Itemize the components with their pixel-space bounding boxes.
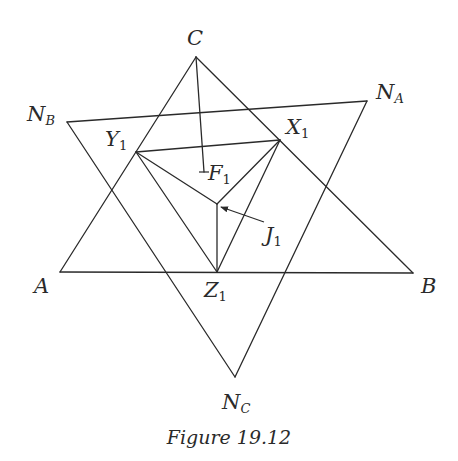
- label-X1-text: X: [286, 115, 301, 139]
- side-CA: [60, 57, 196, 272]
- label-NB: NB: [27, 104, 55, 127]
- pedal-X1Y1: [136, 140, 280, 152]
- label-Z1: Z1: [204, 280, 227, 303]
- label-NA-text: N: [376, 80, 394, 104]
- label-NC-sub: C: [240, 401, 250, 416]
- label-F1-text: F: [208, 161, 223, 185]
- side-NA-NB: [67, 101, 367, 122]
- pedal-Z1X1: [217, 140, 280, 272]
- label-Z1-sub: 1: [219, 289, 227, 304]
- label-NA-sub: A: [394, 91, 403, 106]
- geometry-figure: C A B NB NA NC Y1 X1 Z1 F1 J1 Figure 19.…: [0, 0, 458, 461]
- label-NB-sub: B: [45, 113, 55, 128]
- label-J1: J1: [265, 225, 282, 248]
- label-C-text: C: [187, 26, 203, 50]
- label-Y1-sub: 1: [119, 138, 127, 153]
- label-NA: NA: [376, 82, 404, 105]
- segments-group: [60, 57, 413, 377]
- label-F1: F1: [208, 163, 231, 186]
- label-C: C: [187, 28, 203, 49]
- label-A: A: [34, 276, 49, 297]
- pedal-Y1Z1: [136, 152, 217, 272]
- label-A-text: A: [34, 274, 49, 298]
- label-B: B: [421, 276, 436, 297]
- label-J1-sub: 1: [273, 234, 281, 249]
- label-X1: X1: [286, 117, 309, 140]
- label-NB-text: N: [27, 102, 45, 126]
- figure-caption: Figure 19.12: [0, 426, 458, 448]
- label-NC: NC: [222, 392, 250, 415]
- label-NC-text: N: [222, 390, 240, 414]
- label-Y1-text: Y: [105, 127, 119, 151]
- label-X1-sub: 1: [301, 126, 309, 141]
- label-F1-sub: 1: [223, 172, 231, 187]
- label-Z1-text: Z: [204, 278, 219, 302]
- ray-J1-Y1: [136, 152, 217, 204]
- cevian-C-F1: [196, 57, 204, 172]
- side-AB: [60, 272, 413, 273]
- label-Y1: Y1: [105, 129, 127, 152]
- label-B-text: B: [421, 274, 436, 298]
